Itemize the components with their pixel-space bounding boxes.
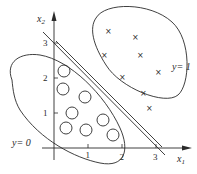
y-tick-label-1: 1 [43, 108, 48, 118]
cross-marker-icon: × [105, 27, 112, 36]
class1-label: y= 1 [171, 61, 191, 72]
circle-marker-icon [58, 65, 70, 77]
cross-marker-icon: × [146, 104, 153, 113]
class0-points [57, 65, 119, 141]
y-tick-label-2: 2 [43, 73, 48, 83]
cross-marker-icon: × [140, 89, 147, 98]
class0-label: y= 0 [11, 137, 31, 148]
y-axis-label: x2 [36, 13, 45, 26]
x-tick-label-2: 2 [120, 152, 125, 162]
y-axis-arrow-icon [52, 11, 57, 21]
x-axis-label: x1 [176, 153, 185, 166]
circle-marker-icon [107, 129, 119, 141]
circle-marker-icon [80, 124, 92, 136]
cross-marker-icon: × [119, 73, 126, 82]
cross-marker-icon: × [137, 51, 144, 60]
circle-marker-icon [60, 122, 72, 134]
circle-marker-icon [57, 83, 69, 95]
x-axis-arrow-icon [182, 146, 192, 151]
circle-marker-icon [97, 114, 109, 126]
cross-marker-icon: × [101, 51, 108, 60]
circle-marker-icon [66, 107, 78, 119]
cross-marker-icon: × [155, 68, 162, 77]
classification-diagram: 1 2 3 1 2 3 x1 x2 y= 1 y= 0 × × × × × × … [0, 0, 197, 174]
cross-marker-icon: × [132, 33, 139, 42]
x-tick-label-1: 1 [86, 150, 91, 160]
y-tick-label-3: 3 [43, 38, 48, 48]
x-tick-label-3: 3 [153, 152, 158, 162]
circle-marker-icon [79, 91, 91, 103]
